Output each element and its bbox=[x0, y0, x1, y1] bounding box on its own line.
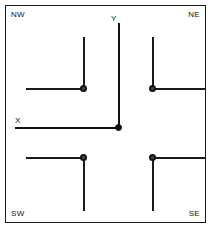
sw-vertex-point bbox=[80, 154, 87, 161]
quadrant-label-se: SE bbox=[189, 209, 200, 218]
nw-vertex-point bbox=[80, 85, 87, 92]
nw-vertical-arm bbox=[83, 37, 85, 89]
sw-vertical-arm bbox=[83, 159, 85, 211]
quadrant-diagram: NW NE SW SE Y X bbox=[0, 0, 213, 230]
ne-vertex-point bbox=[149, 85, 156, 92]
quadrant-label-ne: NE bbox=[188, 10, 200, 19]
plot-frame: NW NE SW SE Y X bbox=[5, 5, 206, 223]
se-vertex-point bbox=[149, 154, 156, 161]
y-axis-label: Y bbox=[111, 14, 116, 23]
quadrant-label-sw: SW bbox=[11, 209, 25, 218]
quadrant-label-nw: NW bbox=[11, 10, 25, 19]
ne-horizontal-arm bbox=[154, 88, 206, 90]
x-axis-label: X bbox=[15, 116, 20, 125]
y-axis-line bbox=[118, 23, 120, 129]
sw-horizontal-arm bbox=[26, 157, 85, 159]
x-axis-line bbox=[15, 127, 120, 129]
origin-point bbox=[115, 124, 122, 131]
ne-vertical-arm bbox=[152, 37, 154, 89]
nw-horizontal-arm bbox=[26, 88, 85, 90]
se-horizontal-arm bbox=[154, 157, 206, 159]
se-vertical-arm bbox=[152, 159, 154, 211]
